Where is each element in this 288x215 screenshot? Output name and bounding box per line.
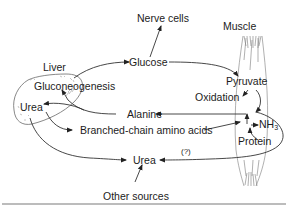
- label-other-sources: Other sources: [103, 191, 169, 202]
- label-urea-liver: Urea: [20, 102, 43, 113]
- label-uncertain: (?): [181, 148, 191, 156]
- glucose-alanine-cycle-diagram: Nerve cells Muscle Liver Glucose Glucone…: [0, 0, 288, 215]
- label-bcaa: Branched-chain amino acids: [80, 125, 213, 136]
- muscle-shape: [235, 36, 268, 186]
- label-gluconeogenesis: Gluconeogenesis: [34, 81, 115, 92]
- label-urea-bottom: Urea: [133, 155, 156, 166]
- label-nerve-cells: Nerve cells: [137, 13, 189, 24]
- label-muscle: Muscle: [223, 21, 256, 32]
- label-protein: Protein: [238, 136, 271, 147]
- label-pyruvate: Pyruvate: [226, 76, 267, 87]
- nh3-base: NH: [259, 118, 274, 130]
- label-alanine: Alanine: [127, 109, 162, 120]
- label-liver: Liver: [43, 62, 66, 73]
- label-oxidation: Oxidation: [195, 92, 239, 103]
- label-glucose: Glucose: [129, 57, 168, 68]
- label-nh3: NH3: [259, 119, 278, 131]
- nh3-subscript: 3: [274, 124, 278, 131]
